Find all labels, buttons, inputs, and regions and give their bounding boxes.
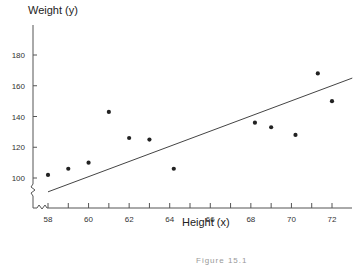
y-axis-title: Weight (y) — [28, 4, 78, 16]
x-axis-title: Height (x) — [182, 216, 230, 228]
data-point — [66, 167, 70, 171]
data-point — [316, 71, 320, 75]
data-point — [46, 173, 50, 177]
x-tick-label: 64 — [165, 215, 174, 224]
data-point — [330, 99, 334, 103]
data-point — [172, 167, 176, 171]
data-point — [86, 161, 90, 165]
data-points — [46, 71, 334, 177]
y-tick-label: 100 — [12, 174, 26, 183]
data-point — [293, 133, 297, 137]
data-point — [147, 137, 151, 141]
data-point — [107, 110, 111, 114]
x-tick-label: 68 — [246, 215, 255, 224]
y-tick-label: 140 — [12, 113, 26, 122]
y-tick-label: 180 — [12, 51, 26, 60]
regression-line — [48, 78, 352, 192]
data-point — [127, 136, 131, 140]
data-point — [269, 125, 273, 129]
y-tick-label: 120 — [12, 143, 26, 152]
y-tick-label: 160 — [12, 82, 26, 91]
x-tick-label: 72 — [328, 215, 337, 224]
figure-caption: Figure 15.1 — [196, 256, 247, 265]
x-tick-label: 70 — [287, 215, 296, 224]
scatter-plot: 1001201401601805860626466687072 — [0, 0, 358, 266]
x-tick-label: 58 — [44, 215, 53, 224]
axes: 1001201401601805860626466687072 — [12, 25, 352, 224]
x-axis-line — [33, 205, 352, 209]
x-tick-label: 60 — [84, 215, 93, 224]
x-tick-label: 62 — [125, 215, 134, 224]
data-point — [253, 121, 257, 125]
